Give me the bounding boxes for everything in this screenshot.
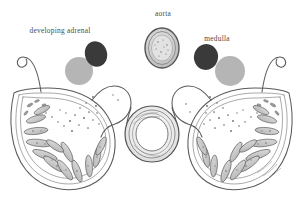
label-developing-adrenal: developing adrenal (30, 26, 91, 35)
label-aorta: aorta (155, 9, 171, 18)
adrenal-diagram-svg: developing adrenal aorta medulla cortex (0, 0, 303, 216)
figure-root: developing adrenal aorta medulla cortex (0, 0, 303, 216)
vessel-lumen (136, 117, 168, 151)
cortex-swatch-right (215, 56, 245, 86)
label-medulla: medulla (204, 34, 230, 43)
aorta-cross-section (145, 28, 179, 68)
central-vessel-cross-section (125, 106, 179, 162)
aorta-lumen (152, 35, 173, 61)
